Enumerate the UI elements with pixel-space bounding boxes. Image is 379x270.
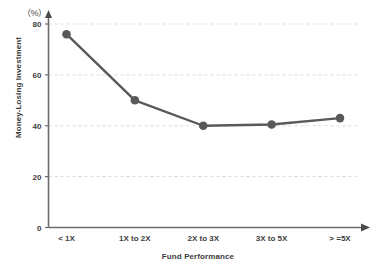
x-axis-arrowhead xyxy=(361,224,370,232)
chart-container: （%） Money-Losing Investment 020406080 < … xyxy=(0,0,379,270)
data-point-marker[interactable] xyxy=(336,114,345,123)
data-line-series xyxy=(67,34,341,126)
data-markers-group xyxy=(62,30,344,130)
x-tick-label: 3X to 5X xyxy=(256,234,288,243)
x-tick-label: > =5X xyxy=(329,234,351,243)
x-tick-label: < 1X xyxy=(58,234,75,243)
data-point-marker[interactable] xyxy=(199,121,208,130)
y-axis-arrowhead xyxy=(45,10,52,18)
plot-area: 020406080 < 1X1X to 2X2X to 3X3X to 5X> … xyxy=(0,0,379,270)
data-point-marker[interactable] xyxy=(131,96,140,105)
data-point-marker[interactable] xyxy=(62,30,71,39)
y-tick-labels-group: 020406080 xyxy=(33,20,42,233)
x-tick-label: 1X to 2X xyxy=(119,234,151,243)
data-point-marker[interactable] xyxy=(267,120,276,129)
x-axis-title: Fund Performance xyxy=(48,252,348,261)
y-tick-label: 80 xyxy=(33,20,42,29)
x-tick-labels-group: < 1X1X to 2X2X to 3X3X to 5X> =5X xyxy=(58,234,351,243)
y-tick-label: 0 xyxy=(37,224,42,233)
y-tick-label: 20 xyxy=(33,173,42,182)
y-tick-label: 40 xyxy=(33,122,42,131)
y-tick-label: 60 xyxy=(33,71,42,80)
gridlines-group xyxy=(49,24,358,177)
x-tick-label: 2X to 3X xyxy=(187,234,219,243)
